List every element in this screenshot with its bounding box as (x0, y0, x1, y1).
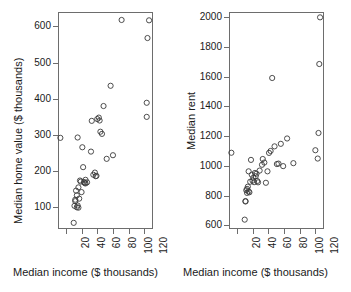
y-tick-mark (224, 47, 229, 48)
x-axis-title-right: Median income ($ thousands) (183, 266, 328, 278)
x-tick-mark (253, 229, 254, 234)
y-axis-title-left: Median home value ($ thousands) (12, 58, 24, 224)
y-tick-mark (224, 166, 229, 167)
x-tick-mark (315, 229, 316, 234)
y-tick-label: 2000 (187, 12, 222, 22)
y-tick-mark (224, 17, 229, 18)
x-tick-label: 20 (81, 237, 91, 267)
x-tick-label: 100 (315, 237, 325, 267)
panel-median-home-value: 10020030040050060020406080100120 Median … (0, 0, 176, 292)
x-tick-mark (268, 229, 269, 234)
y-tick-mark (53, 99, 58, 100)
x-tick-mark (129, 229, 130, 234)
y-tick-label: 800 (187, 191, 222, 201)
x-axis-title-left: Median income ($ thousands) (13, 266, 158, 278)
y-tick-mark (53, 63, 58, 64)
panel-median-rent: 6008001000120014001600180020002040608010… (175, 0, 351, 292)
x-tick-label: 80 (128, 237, 138, 267)
x-tick-label: 120 (159, 237, 169, 267)
y-tick-label: 600 (16, 21, 51, 31)
y-tick-mark (224, 196, 229, 197)
axes-right: 6008001000120014001600180020002040608010… (175, 0, 351, 292)
x-tick-mark (113, 229, 114, 234)
x-tick-label: 100 (144, 237, 154, 267)
y-tick-mark (53, 171, 58, 172)
x-tick-mark (284, 229, 285, 234)
x-tick-mark (144, 229, 145, 234)
x-tick-mark (97, 229, 98, 234)
x-tick-label: 60 (112, 237, 122, 267)
y-tick-label: 1000 (187, 161, 222, 171)
axes-left: 10020030040050060020406080100120 (0, 0, 176, 292)
y-tick-mark (53, 26, 58, 27)
y-tick-mark (53, 207, 58, 208)
figure-two-scatterplots: 10020030040050060020406080100120 Median … (0, 0, 351, 292)
x-tick-label: 60 (283, 237, 293, 267)
y-tick-label: 600 (187, 220, 222, 230)
x-tick-label: 40 (268, 237, 278, 267)
y-tick-label: 1600 (187, 72, 222, 82)
y-tick-mark (224, 136, 229, 137)
y-tick-mark (53, 135, 58, 136)
x-tick-label: 120 (330, 237, 340, 267)
y-tick-mark (224, 77, 229, 78)
x-tick-mark (66, 229, 67, 234)
y-tick-mark (224, 225, 229, 226)
y-tick-label: 1800 (187, 42, 222, 52)
x-tick-label: 40 (97, 237, 107, 267)
y-axis-title-right: Median rent (185, 92, 197, 150)
x-tick-label: 80 (299, 237, 309, 267)
x-tick-label: 20 (252, 237, 262, 267)
x-tick-mark (82, 229, 83, 234)
y-tick-mark (224, 106, 229, 107)
x-tick-mark (237, 229, 238, 234)
x-tick-mark (300, 229, 301, 234)
